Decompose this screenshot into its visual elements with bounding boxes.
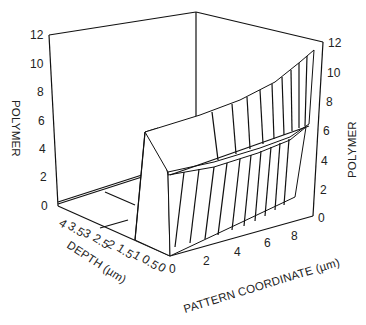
rz-tick-12: 12 <box>328 36 342 50</box>
rz-tick-6: 6 <box>323 124 330 138</box>
z-tick-12: 12 <box>30 28 44 42</box>
rz-tick-10: 10 <box>327 66 341 80</box>
surface-plot: 12 10 8 6 4 2 0 POLYMER 12 10 8 6 4 2 0 … <box>0 0 366 325</box>
pattern-tick-8: 8 <box>291 229 298 243</box>
z-tick-10: 10 <box>30 57 44 71</box>
pattern-tick-0: 0 <box>169 262 176 276</box>
left-z-axis-ticks: 12 10 8 6 4 2 0 <box>30 28 48 213</box>
left-z-axis-label: POLYMER <box>10 100 22 157</box>
pattern-tick-2: 2 <box>203 254 210 268</box>
z-tick-6: 6 <box>38 114 45 128</box>
z-tick-2: 2 <box>40 170 47 184</box>
right-z-axis-label: POLYMER <box>346 121 358 178</box>
rz-tick-0: 0 <box>318 211 325 225</box>
pattern-tick-6: 6 <box>264 236 271 250</box>
rz-tick-8: 8 <box>326 95 333 109</box>
pattern-tick-4: 4 <box>234 245 241 259</box>
z-tick-8: 8 <box>37 85 44 99</box>
rz-tick-4: 4 <box>321 154 328 168</box>
rz-tick-2: 2 <box>320 183 327 197</box>
surface-flat-region <box>58 174 145 228</box>
z-tick-0: 0 <box>41 199 48 213</box>
z-tick-4: 4 <box>39 142 46 156</box>
